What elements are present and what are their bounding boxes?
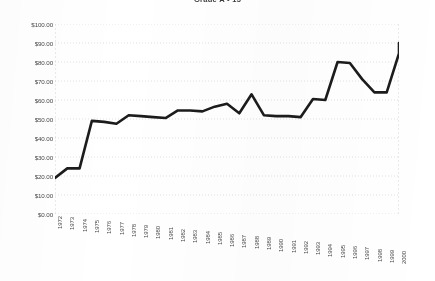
y-axis-tick-label: $30.00 xyxy=(3,154,53,161)
y-axis-tick-label: $0.00 xyxy=(3,211,53,218)
chart-title: Grade A - 15 xyxy=(0,0,435,2)
x-axis-tick-label: 1982 xyxy=(180,229,186,242)
x-axis-tick-label: 1987 xyxy=(241,235,247,248)
x-axis-tick-label: 1984 xyxy=(205,231,211,244)
x-axis-tick-label: 1976 xyxy=(106,221,112,234)
x-axis-tick-label: 1985 xyxy=(217,232,223,245)
y-axis-tick-label: $20.00 xyxy=(3,173,53,180)
x-axis-tick-label: 1986 xyxy=(229,234,235,247)
x-axis-tick-label: 1988 xyxy=(254,236,260,249)
x-axis: 1972197319741975197619771978197919801981… xyxy=(55,216,399,276)
x-axis-tick-label: 1998 xyxy=(377,249,383,262)
y-axis-tick-label: $50.00 xyxy=(3,116,53,123)
x-axis-tick-label: 1977 xyxy=(119,222,125,235)
x-axis-tick-label: 1997 xyxy=(364,247,370,260)
x-axis-tick-label: 1990 xyxy=(278,239,284,252)
x-axis-tick-label: 1996 xyxy=(352,246,358,259)
y-axis-tick-label: $60.00 xyxy=(3,97,53,104)
x-axis-tick-label: 2000 xyxy=(401,251,407,264)
x-axis-tick-label: 1978 xyxy=(131,224,137,237)
x-axis-tick-label: 1992 xyxy=(303,241,309,254)
y-axis-tick-label: $80.00 xyxy=(3,59,53,66)
x-axis-tick-label: 1980 xyxy=(155,226,161,239)
y-axis-tick-label: $90.00 xyxy=(3,40,53,47)
x-axis-tick-label: 1975 xyxy=(94,220,100,233)
y-axis-tick-label: $70.00 xyxy=(3,78,53,85)
x-axis-tick-label: 1991 xyxy=(291,240,297,253)
x-axis-tick-label: 1993 xyxy=(315,242,321,255)
x-axis-tick-label: 1973 xyxy=(69,217,75,230)
x-axis-tick-label: 1983 xyxy=(192,230,198,243)
y-axis: $100.00$90.00$80.00$70.00$60.00$50.00$40… xyxy=(0,24,53,214)
y-axis-tick-label: $100.00 xyxy=(3,21,53,28)
y-axis-tick-label: $10.00 xyxy=(3,192,53,199)
plot-area xyxy=(55,24,399,214)
plot-canvas xyxy=(55,24,399,214)
x-axis-tick-label: 1989 xyxy=(266,237,272,250)
x-axis-tick-label: 1999 xyxy=(389,250,395,263)
line-chart: Grade A - 15 $100.00$90.00$80.00$70.00$6… xyxy=(0,0,435,281)
x-axis-tick-label: 1994 xyxy=(327,244,333,257)
data-series-line xyxy=(55,43,399,178)
x-axis-tick-label: 1979 xyxy=(143,225,149,238)
x-axis-tick-label: 1972 xyxy=(57,216,63,229)
x-axis-tick-label: 1995 xyxy=(340,245,346,258)
x-axis-tick-label: 1974 xyxy=(82,219,88,232)
x-axis-tick-label: 1981 xyxy=(168,227,174,240)
gridlines xyxy=(55,24,399,214)
y-axis-tick-label: $40.00 xyxy=(3,135,53,142)
